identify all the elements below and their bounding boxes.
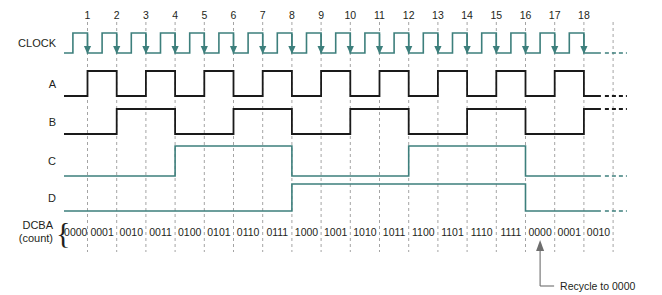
row-label-a: A bbox=[49, 78, 57, 90]
clock-number-9: 9 bbox=[318, 9, 324, 21]
count-value-1: 0001 bbox=[90, 226, 114, 238]
count-value-12: 1100 bbox=[412, 226, 435, 238]
count-value-7: 0111 bbox=[266, 226, 288, 238]
count-value-0: 0000 bbox=[64, 226, 88, 238]
clock-number-1: 1 bbox=[85, 9, 91, 21]
clock-number-18: 18 bbox=[578, 9, 590, 21]
row-label-c: C bbox=[48, 155, 56, 167]
count-value-3: 0011 bbox=[149, 226, 172, 238]
count-value-8: 1000 bbox=[295, 226, 319, 238]
timing-diagram-figure: 123456789101112131415161718 CLOCKABCDDCB… bbox=[0, 0, 662, 295]
count-value-18: 0010 bbox=[587, 226, 611, 238]
clock-number-16: 16 bbox=[520, 9, 532, 21]
count-value-17: 0001 bbox=[558, 226, 582, 238]
row-label-b: B bbox=[49, 116, 56, 128]
count-value-14: 1110 bbox=[471, 226, 493, 238]
clock-number-4: 4 bbox=[172, 9, 178, 21]
count-value-2: 0010 bbox=[120, 226, 144, 238]
count-value-9: 1001 bbox=[324, 226, 348, 238]
waveform-c bbox=[64, 146, 601, 176]
count-value-5: 0101 bbox=[207, 226, 231, 238]
row-label-count-line2: (count) bbox=[19, 232, 53, 244]
count-value-11: 1011 bbox=[383, 226, 406, 238]
clock-number-12: 12 bbox=[403, 9, 415, 21]
count-value-16: 0000 bbox=[528, 226, 552, 238]
count-value-6: 0110 bbox=[237, 226, 260, 238]
gridlines-group bbox=[88, 22, 614, 252]
count-value-13: 1101 bbox=[441, 226, 464, 238]
recycle-arrowhead-icon bbox=[536, 240, 544, 251]
count-value-15: 1111 bbox=[500, 226, 521, 238]
clock-number-13: 13 bbox=[432, 9, 444, 21]
waveform-b bbox=[64, 109, 601, 134]
clock-number-6: 6 bbox=[231, 9, 237, 21]
clock-number-14: 14 bbox=[461, 9, 473, 21]
timing-diagram-svg: 123456789101112131415161718 CLOCKABCDDCB… bbox=[0, 0, 662, 295]
row-label-clock: CLOCK bbox=[18, 37, 57, 49]
clock-number-8: 8 bbox=[289, 9, 295, 21]
waveform-a bbox=[64, 71, 601, 96]
clock-number-5: 5 bbox=[201, 9, 207, 21]
clock-number-11: 11 bbox=[374, 9, 385, 21]
waveform-d bbox=[64, 184, 601, 211]
count-value-4: 0100 bbox=[178, 226, 202, 238]
count-value-10: 1010 bbox=[353, 226, 377, 238]
row-label-d: D bbox=[48, 192, 56, 204]
clock-number-2: 2 bbox=[114, 9, 120, 21]
row-labels-group: CLOCKABCDDCBA(count){ bbox=[18, 37, 70, 249]
clock-number-labels-group: 123456789101112131415161718 bbox=[85, 9, 590, 21]
clock-number-17: 17 bbox=[549, 9, 561, 21]
clock-number-7: 7 bbox=[260, 9, 266, 21]
waveforms-group bbox=[64, 33, 627, 211]
recycle-annotation-group: Recycle to 0000 bbox=[536, 240, 635, 292]
clock-number-15: 15 bbox=[490, 9, 502, 21]
clock-number-10: 10 bbox=[344, 9, 356, 21]
recycle-label: Recycle to 0000 bbox=[560, 280, 635, 292]
row-label-count-line1: DCBA bbox=[22, 219, 53, 231]
clock-number-3: 3 bbox=[143, 9, 149, 21]
